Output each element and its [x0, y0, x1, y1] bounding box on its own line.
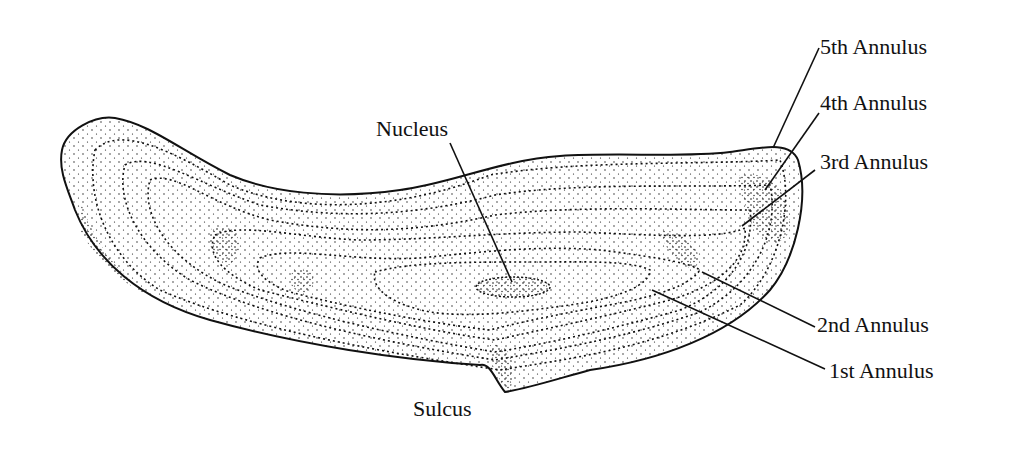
label-nucleus: Nucleus: [376, 118, 448, 140]
label-sulcus: Sulcus: [413, 398, 472, 420]
label-5th-annulus: 5th Annulus: [820, 36, 927, 58]
label-1st-annulus: 1st Annulus: [829, 360, 934, 382]
label-4th-annulus: 4th Annulus: [820, 92, 927, 114]
label-2nd-annulus: 2nd Annulus: [817, 314, 929, 336]
leader-5th-annulus: [773, 48, 819, 148]
label-3rd-annulus: 3rd Annulus: [820, 151, 928, 173]
nucleus-shape: [476, 277, 550, 297]
